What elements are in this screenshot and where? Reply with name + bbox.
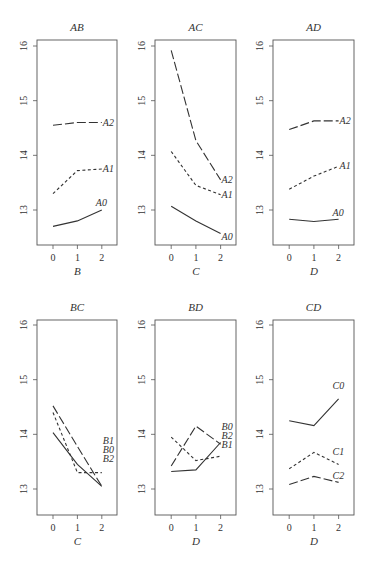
x-axis-label: C [192,265,200,277]
x-tick-label: 2 [99,522,104,533]
interaction-plot-grid: AB13141516012BA0A1A2AC13141516012CA0A1A2… [0,0,375,567]
x-tick-label: 0 [287,252,292,263]
y-tick-label: 14 [18,429,29,439]
series-label: C0 [333,380,345,391]
series-line-a2 [53,123,102,126]
series-label: A0 [332,207,344,218]
y-tick-label: 14 [136,429,147,439]
series-line-a2 [289,121,338,130]
y-tick-label: 13 [18,484,29,494]
y-tick-label: 16 [136,41,147,51]
series-line-a2 [171,50,220,180]
x-tick-label: 0 [51,252,56,263]
y-tick-label: 13 [18,205,29,215]
series-label: A2 [221,174,233,185]
y-tick-label: 15 [18,375,29,385]
y-tick-label: 16 [136,320,147,330]
y-tick-label: 15 [18,96,29,106]
y-tick-label: 16 [18,41,29,51]
y-tick-label: 14 [136,150,147,160]
series-line-b0 [53,433,102,487]
panel-cd: CD13141516012DC0C1C2 [254,301,354,547]
y-tick-label: 15 [136,96,147,106]
x-tick-label: 1 [193,252,198,263]
plot-frame [155,40,236,245]
y-tick-label: 15 [136,375,147,385]
series-line-b2 [53,406,102,486]
series-line-c2 [289,476,338,484]
series-label: C1 [333,446,345,457]
plot-frame [37,320,117,515]
x-axis-label: B [74,265,81,277]
series-label: A1 [221,189,233,200]
y-tick-label: 13 [136,484,147,494]
x-tick-label: 2 [218,252,223,263]
series-label: B1 [103,435,114,446]
x-axis-label: D [309,265,318,277]
y-tick-label: 13 [254,484,265,494]
y-tick-label: 14 [254,150,265,160]
y-tick-label: 13 [136,205,147,215]
x-axis-label: C [74,535,82,547]
x-tick-label: 0 [169,522,174,533]
y-tick-label: 14 [254,429,265,439]
x-tick-label: 2 [336,252,341,263]
x-tick-label: 1 [75,252,80,263]
x-tick-label: 1 [193,522,198,533]
x-tick-label: 0 [287,522,292,533]
series-line-a1 [289,166,338,189]
plot-frame [273,320,354,515]
y-tick-label: 16 [254,320,265,330]
panel-bc: BC13141516012CB0B1B2 [18,301,117,547]
series-line-a1 [171,152,220,195]
series-line-a1 [53,169,102,194]
x-tick-label: 1 [311,252,316,263]
x-axis-label: D [191,535,200,547]
panel-ab: AB13141516012BA0A1A2 [18,21,117,277]
y-tick-label: 15 [254,375,265,385]
x-tick-label: 0 [51,522,56,533]
panel-title: AB [69,21,84,33]
series-label: A1 [339,160,351,171]
series-label: B2 [103,453,114,464]
series-label: A0 [95,197,107,208]
plot-frame [155,320,236,515]
chart-canvas: AB13141516012BA0A1A2AC13141516012CA0A1A2… [0,0,375,567]
panel-title: BD [188,301,203,313]
series-line-b1 [171,437,220,461]
plot-frame [37,40,117,245]
x-axis-label: D [309,535,318,547]
y-tick-label: 15 [254,96,265,106]
panel-ad: AD13141516012DA0A1A2 [254,21,354,277]
series-line-a0 [171,206,220,233]
panel-title: BC [70,301,85,313]
series-label: A2 [339,115,351,126]
x-tick-label: 1 [311,522,316,533]
series-label: B2 [222,430,233,441]
series-label: A1 [102,163,114,174]
y-tick-label: 13 [254,205,265,215]
panel-title: AC [187,21,203,33]
panel-bd: BD13141516012DB0B1B2 [136,301,236,547]
panel-title: AD [305,21,321,33]
x-tick-label: 2 [336,522,341,533]
series-line-c1 [289,452,338,468]
panel-title: CD [306,301,321,313]
x-tick-label: 2 [99,252,104,263]
series-label: C2 [333,470,345,481]
series-label: A2 [102,117,114,128]
panel-ac: AC13141516012CA0A1A2 [136,21,236,277]
x-tick-label: 2 [218,522,223,533]
y-tick-label: 14 [18,150,29,160]
y-tick-label: 16 [254,41,265,51]
x-tick-label: 0 [169,252,174,263]
series-line-a0 [53,210,102,226]
y-tick-label: 16 [18,320,29,330]
x-tick-label: 1 [75,522,80,533]
series-line-c0 [289,399,338,426]
series-label: A0 [221,231,233,242]
series-line-a0 [289,219,338,221]
